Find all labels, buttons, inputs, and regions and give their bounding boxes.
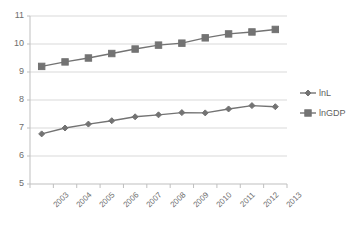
legend-label-lnGDP: lnGDP [319, 109, 346, 118]
data-point [155, 42, 161, 48]
y-axis-tick-label: 8 [8, 95, 24, 104]
data-point [62, 59, 68, 65]
y-axis-tick-label: 11 [8, 11, 24, 20]
y-axis-tick-label: 10 [8, 39, 24, 48]
chart-container: 567891011 200320042005200620072008200920… [0, 0, 358, 225]
y-axis-tick-label: 9 [8, 67, 24, 76]
data-point [249, 29, 255, 35]
data-point [85, 55, 91, 61]
y-axis-tick-label: 5 [8, 179, 24, 188]
data-point [179, 40, 185, 46]
y-axis-tick-label: 6 [8, 151, 24, 160]
data-point [272, 26, 278, 32]
data-point [225, 31, 231, 37]
data-point [132, 46, 138, 52]
data-point [202, 35, 208, 41]
legend-marker-lnGDP [305, 110, 311, 116]
data-point [109, 50, 115, 56]
y-axis-tick-label: 7 [8, 123, 24, 132]
data-point [38, 63, 44, 69]
legend-label-lnL: lnL [319, 89, 331, 98]
